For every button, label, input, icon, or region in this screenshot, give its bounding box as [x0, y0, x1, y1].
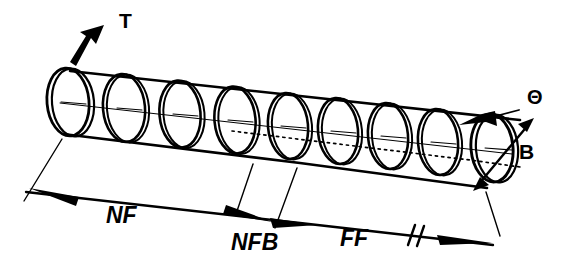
- extension-line-nf-nfb: [275, 168, 297, 228]
- taper-callout: T: [70, 9, 132, 66]
- beam-width-callout: B: [473, 118, 534, 191]
- far-field-label: FF: [340, 225, 369, 251]
- ring-6: [315, 96, 365, 166]
- extension-line-right: [486, 192, 500, 236]
- near-field-boundary-label: NFB: [231, 229, 278, 255]
- ring-8: [415, 107, 465, 177]
- nfb-arrow-right: [270, 218, 318, 228]
- nf-arrow-left: [29, 188, 79, 206]
- ring-3: [157, 79, 208, 150]
- ring-4: [212, 85, 263, 156]
- field-region-diagram: T Θ B: [0, 0, 587, 273]
- extension-line-nfb-ff: [237, 164, 253, 211]
- ring-5: [265, 91, 315, 161]
- beam-width-label: B: [519, 140, 534, 163]
- near-field-label: NF: [106, 202, 138, 228]
- ring-2: [100, 72, 152, 144]
- nf-arrow-right: [223, 205, 273, 222]
- cross-section-rings: [44, 66, 521, 184]
- taper-arrow: [70, 25, 104, 66]
- ring-7: [365, 101, 415, 171]
- theta-label: Θ: [527, 86, 543, 108]
- dimension-chain: NF NFB FF: [24, 139, 500, 255]
- taper-label: T: [119, 9, 132, 32]
- diagram-canvas: T Θ B: [0, 0, 587, 273]
- ring-1: [44, 66, 97, 138]
